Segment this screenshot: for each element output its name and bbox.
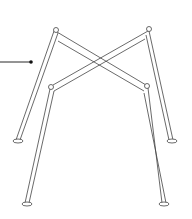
leg-front-right bbox=[144, 88, 166, 203]
joint-mid-left bbox=[49, 85, 54, 90]
joint-top-right bbox=[147, 27, 152, 32]
brace-top-left-to-mid-right bbox=[57, 32, 146, 91]
foot-back-right bbox=[167, 139, 177, 143]
joint-mid-right bbox=[145, 84, 150, 89]
leg-front-left bbox=[25, 89, 54, 203]
foot-back-left bbox=[13, 139, 23, 143]
foot-front-left bbox=[22, 202, 32, 206]
leader-dot bbox=[29, 60, 33, 64]
brace-top-right-to-mid-left bbox=[53, 31, 148, 91]
foot-front-right bbox=[159, 202, 169, 206]
joint-top-left bbox=[54, 28, 59, 33]
callout-leader bbox=[0, 60, 33, 64]
table-base-diagram bbox=[0, 0, 192, 219]
